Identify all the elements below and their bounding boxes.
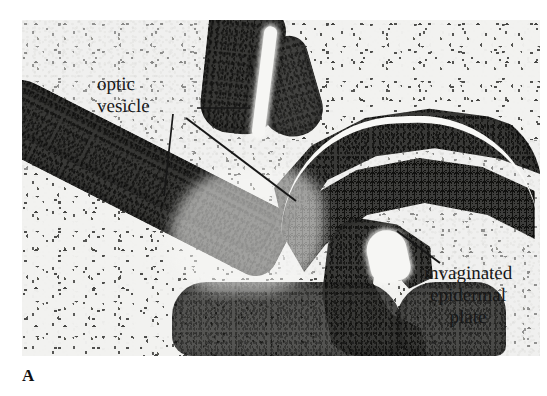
micrograph-image	[22, 20, 540, 356]
figure-root: optic vesicle invaginated epidermal plat…	[0, 0, 547, 396]
central-pale-space	[172, 170, 322, 290]
tissue-layer	[22, 20, 540, 356]
region-lower-middle-epithelium	[172, 282, 402, 356]
region-lower-right-epithelium	[396, 282, 506, 356]
panel-letter: A	[22, 366, 35, 386]
